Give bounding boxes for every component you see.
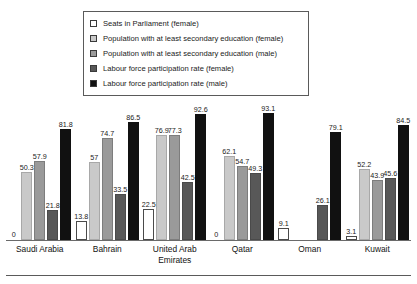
- legend-item-label: Labour force participation rate (female): [103, 64, 234, 73]
- bar-value-label: 22.5: [142, 200, 156, 209]
- bar-group: 3.152.243.945.684.5: [344, 104, 412, 240]
- bar-value-label: 3.1: [346, 227, 356, 236]
- bar: 93.1: [263, 113, 274, 240]
- bar: 86.5: [128, 122, 139, 240]
- bar-slot: 93.1: [263, 104, 274, 240]
- x-axis-tick-label: Bahrain: [74, 244, 142, 272]
- bar-value-label: 84.5: [396, 116, 410, 125]
- legend-item-labour-force-male: Labour force participation rate (male): [90, 76, 302, 91]
- bar: 57.9: [34, 161, 45, 240]
- legend-item-seats-in-parliament-female: Seats in Parliament (female): [90, 16, 302, 31]
- bar-slot: 84.5: [398, 104, 409, 240]
- bar-slot: 42.5: [182, 104, 193, 240]
- legend-swatch-icon: [90, 50, 97, 57]
- bar-value-label: 49.3: [248, 164, 262, 173]
- bar-value-label: 0: [214, 230, 218, 239]
- legend-item-secondary-education-female: Population with at least secondary educa…: [90, 31, 302, 46]
- bar-slot: 43.9: [372, 104, 383, 240]
- bar-slot: 79.1: [330, 104, 341, 240]
- bar: 49.3: [250, 173, 261, 240]
- bar: 84.5: [398, 125, 409, 240]
- bar-group: 13.85774.733.586.5: [74, 104, 142, 240]
- bar-slot: 76.9: [156, 104, 167, 240]
- bar-slot: [291, 104, 302, 240]
- bar-slot: 57.9: [34, 104, 45, 240]
- legend-item-label: Population with at least secondary educa…: [103, 34, 283, 43]
- x-axis-tick-label: Oman: [276, 244, 344, 272]
- bar-group: 050.357.921.881.8: [6, 104, 74, 240]
- bar: 42.5: [182, 182, 193, 240]
- bar-slot: 13.8: [76, 104, 87, 240]
- bar-slot: 52.2: [359, 104, 370, 240]
- bar: 45.6: [385, 178, 396, 240]
- bar-value-label: 43.9: [370, 171, 384, 180]
- bar-slot: 33.5: [115, 104, 126, 240]
- bar: 76.9: [156, 135, 167, 240]
- bar-slot: 57: [89, 104, 100, 240]
- bar-group: 062.154.749.393.1: [209, 104, 277, 240]
- bar-value-label: 13.8: [74, 212, 88, 221]
- bar-slot: 3.1: [346, 104, 357, 240]
- bar: 81.8: [60, 129, 71, 240]
- legend-swatch-icon: [90, 20, 97, 27]
- bar: 74.7: [102, 138, 113, 240]
- bar-slot: 0: [211, 104, 222, 240]
- bar-value-label: 52.2: [357, 160, 371, 169]
- x-axis-tick-label: Kuwait: [344, 244, 412, 272]
- x-axis-labels: Saudi ArabiaBahrainUnited Arab EmiratesQ…: [6, 244, 411, 272]
- bar-slot: 26.1: [317, 104, 328, 240]
- bar-group: 22.576.977.342.592.6: [141, 104, 209, 240]
- bar-groups: 050.357.921.881.813.85774.733.586.522.57…: [6, 104, 411, 240]
- bar-value-label: 79.1: [329, 123, 343, 132]
- bar-slot: [304, 104, 315, 240]
- bar-value-label: 42.5: [181, 173, 195, 182]
- bar-slot: 77.3: [169, 104, 180, 240]
- plot-area: 050.357.921.881.813.85774.733.586.522.57…: [6, 104, 411, 240]
- bar: 33.5: [115, 194, 126, 240]
- bar-slot: 21.8: [47, 104, 58, 240]
- bar: 21.8: [47, 210, 58, 240]
- bar-slot: 9.1: [278, 104, 289, 240]
- bar-slot: 54.7: [237, 104, 248, 240]
- chart-bottom-rule: [6, 275, 411, 276]
- bar-value-label: 45.6: [383, 169, 397, 178]
- bar-value-label: 54.7: [235, 157, 249, 166]
- bar-slot: 86.5: [128, 104, 139, 240]
- bar-slot: 45.6: [385, 104, 396, 240]
- bar: 52.2: [359, 169, 370, 240]
- x-axis-tick-label: Saudi Arabia: [6, 244, 74, 272]
- bar-value-label: 93.1: [261, 104, 275, 113]
- bar: 92.6: [195, 114, 206, 240]
- bar: 22.5: [143, 209, 154, 240]
- bar: 62.1: [224, 156, 235, 240]
- x-axis-tick-label: Qatar: [209, 244, 277, 272]
- bar-value-label: 74.7: [100, 129, 114, 138]
- bar-value-label: 57.9: [33, 152, 47, 161]
- x-axis-tick-label: United Arab Emirates: [141, 244, 209, 272]
- bar-value-label: 76.9: [155, 126, 169, 135]
- bar: 57: [89, 162, 100, 240]
- bar: 26.1: [317, 205, 328, 240]
- bar-slot: 74.7: [102, 104, 113, 240]
- bar-value-label: 57: [90, 153, 98, 162]
- bar-value-label: 92.6: [194, 105, 208, 114]
- legend-swatch-icon: [90, 35, 97, 42]
- bar: 43.9: [372, 180, 383, 240]
- bar-value-label: 81.8: [59, 120, 73, 129]
- bar-slot: 49.3: [250, 104, 261, 240]
- bar-slot: 81.8: [60, 104, 71, 240]
- bar-value-label: 86.5: [126, 113, 140, 122]
- bar-group: 9.126.179.1: [276, 104, 344, 240]
- bar-value-label: 9.1: [279, 219, 289, 228]
- bar: 13.8: [76, 221, 87, 240]
- legend-item-label: Seats in Parliament (female): [103, 19, 199, 28]
- bar-value-label: 50.3: [20, 163, 34, 172]
- bar-slot: 22.5: [143, 104, 154, 240]
- legend-item-secondary-education-male: Population with at least secondary educa…: [90, 46, 302, 61]
- bar-value-label: 26.1: [316, 196, 330, 205]
- bar-slot: 92.6: [195, 104, 206, 240]
- bar-value-label: 33.5: [113, 185, 127, 194]
- bar-slot: 50.3: [21, 104, 32, 240]
- bar-chart: Seats in Parliament (female) Population …: [0, 0, 417, 284]
- bar-value-label: 62.1: [222, 147, 236, 156]
